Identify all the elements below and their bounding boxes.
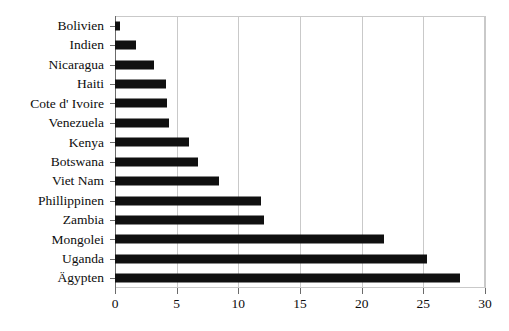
bar [115,274,460,283]
bar [115,41,136,50]
category-label: Zambia [0,210,110,229]
category-label: Mongolei [0,230,110,249]
bar [115,21,120,30]
bar-row [115,55,485,74]
bar [115,138,189,147]
category-label: Ägypten [0,268,110,287]
bar [115,157,198,166]
x-tick-label: 25 [417,296,431,312]
category-label: Haiti [0,74,110,93]
category-label: Viet Nam [0,171,110,190]
bar [115,235,384,244]
category-label: Kenya [0,133,110,152]
category-label: Bolivien [0,16,110,35]
category-label: Cote d' Ivoire [0,94,110,113]
bar-row [115,210,485,229]
bar-row [115,113,485,132]
category-label: Botswana [0,152,110,171]
x-tick-label: 15 [293,296,307,312]
bar [115,177,219,186]
x-tick-label: 20 [355,296,369,312]
category-axis-labels: BolivienIndienNicaraguaHaitiCote d' Ivoi… [0,16,110,288]
bar-row [115,74,485,93]
bar-row [115,16,485,35]
x-tick-label: 30 [478,296,492,312]
category-label: Phillippinen [0,191,110,210]
bar [115,118,169,127]
bar-row [115,171,485,190]
category-label: Nicaragua [0,55,110,74]
bar-row [115,94,485,113]
bar-row [115,133,485,152]
bar-row [115,152,485,171]
x-tick-mark [238,288,239,294]
category-label: Venezuela [0,113,110,132]
bar-row [115,249,485,268]
x-tick-mark [115,288,116,294]
bar [115,99,167,108]
bar [115,79,166,88]
x-tick-mark [423,288,424,294]
x-tick-label: 0 [112,296,119,312]
bar [115,60,154,69]
x-tick-mark [362,288,363,294]
bar [115,196,261,205]
x-tick-mark [177,288,178,294]
gridline-30 [485,16,486,288]
bar-series [115,16,485,288]
bar-row [115,268,485,287]
category-label: Indien [0,35,110,54]
bar [115,215,264,224]
bar-row [115,35,485,54]
x-tick-label: 5 [173,296,180,312]
x-tick-label: 10 [232,296,246,312]
x-tick-mark [300,288,301,294]
bar [115,254,427,263]
bar-row [115,191,485,210]
x-tick-mark [485,288,486,294]
category-label: Uganda [0,249,110,268]
bar-chart: BolivienIndienNicaraguaHaitiCote d' Ivoi… [0,0,509,331]
bar-row [115,230,485,249]
